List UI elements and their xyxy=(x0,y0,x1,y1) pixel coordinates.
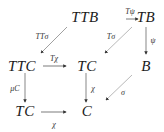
node-tb: TB xyxy=(137,9,156,26)
node-b: B xyxy=(141,58,151,75)
node-ttb: TTB xyxy=(71,9,98,26)
label-t-sigma: Tσ xyxy=(107,32,115,41)
label-mu-c: μC xyxy=(10,84,19,93)
label-t-psi: Tψ xyxy=(125,7,134,16)
node-tc-top: TC xyxy=(77,58,96,75)
arrow-b-c xyxy=(106,75,132,100)
label-psi: ψ xyxy=(151,36,156,45)
node-tc-bottom: TC xyxy=(15,103,34,120)
label-sigma: σ xyxy=(121,88,125,97)
label-chi-bottom: χ xyxy=(52,120,56,129)
label-chi-vertical: χ xyxy=(91,84,95,93)
label-t-chi: Tχ xyxy=(50,54,58,63)
node-c: C xyxy=(82,103,93,120)
commutative-diagram: TTB TB TTC TC B TC C Tψ TTσ Tσ ψ Tχ μC χ… xyxy=(0,0,164,132)
label-tt-sigma: TTσ xyxy=(36,32,49,41)
node-ttc: TTC xyxy=(8,58,36,75)
